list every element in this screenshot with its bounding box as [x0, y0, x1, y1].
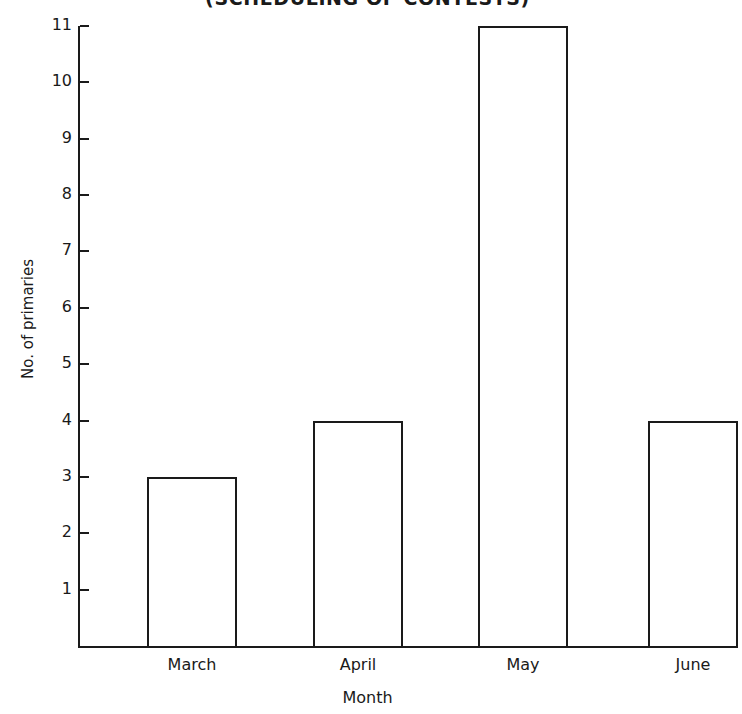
- y-tick-label: 1: [28, 581, 72, 597]
- y-axis-title: No. of primaries: [19, 239, 37, 399]
- bar-march: [147, 477, 237, 648]
- y-tick-label: 9: [28, 130, 72, 146]
- y-tick-label: 8: [28, 186, 72, 202]
- y-tick-mark: [80, 138, 89, 140]
- y-tick-mark: [80, 81, 89, 83]
- x-tick-label-april: April: [298, 655, 418, 674]
- bar-may: [478, 26, 568, 648]
- y-tick-mark: [80, 476, 89, 478]
- y-tick-label: 10: [28, 73, 72, 89]
- y-tick-mark: [80, 25, 89, 27]
- x-tick-label-march: March: [132, 655, 252, 674]
- y-tick-label: 2: [28, 524, 72, 540]
- y-tick-label: 4: [28, 412, 72, 428]
- bar-april: [313, 421, 403, 648]
- y-tick-mark: [80, 420, 89, 422]
- y-tick-mark: [80, 363, 89, 365]
- y-axis-line: [78, 26, 80, 648]
- y-tick-mark: [80, 194, 89, 196]
- bar-june: [648, 421, 738, 648]
- y-tick-mark: [80, 307, 89, 309]
- x-tick-label-may: May: [463, 655, 583, 674]
- x-axis-title: Month: [0, 688, 735, 707]
- y-tick-label: 11: [28, 17, 72, 33]
- y-tick-label: 3: [28, 468, 72, 484]
- x-tick-label-june: June: [633, 655, 742, 674]
- y-tick-mark: [80, 589, 89, 591]
- y-tick-mark: [80, 250, 89, 252]
- y-tick-mark: [80, 532, 89, 534]
